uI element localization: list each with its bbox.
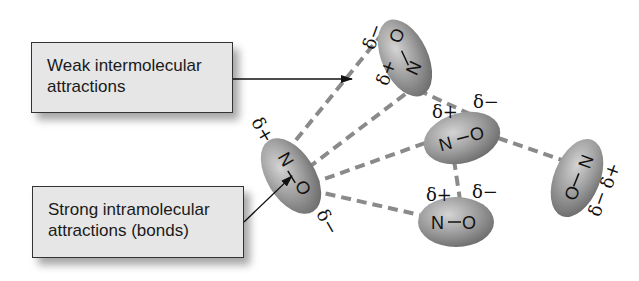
charge-left-negative: δ− — [312, 205, 343, 238]
charge-bottom-positive: δ+ — [426, 184, 452, 205]
atom-o-bottom: O — [462, 213, 476, 233]
charge-bottom-negative: δ− — [472, 181, 498, 202]
label-weak-line2: attractions — [47, 76, 232, 97]
charge-middle-negative: δ− — [473, 91, 499, 112]
label-weak-line1: Weak intermolecular — [47, 55, 232, 76]
dashed-line-left-top2 — [308, 92, 408, 168]
atom-n-bottom: N — [431, 213, 444, 233]
label-strong-intramolecular: Strong intramolecular attractions (bonds… — [32, 186, 244, 258]
dashed-line-left-middle — [310, 142, 428, 184]
label-strong-line2: attractions (bonds) — [48, 220, 243, 241]
charge-middle-positive: δ+ — [432, 101, 458, 122]
dashed-line-middle-bottom — [454, 160, 460, 200]
label-strong-line1: Strong intramolecular — [48, 199, 243, 220]
dashed-line-middle-right — [498, 138, 562, 160]
label-weak-intermolecular: Weak intermolecular attractions — [31, 42, 233, 113]
